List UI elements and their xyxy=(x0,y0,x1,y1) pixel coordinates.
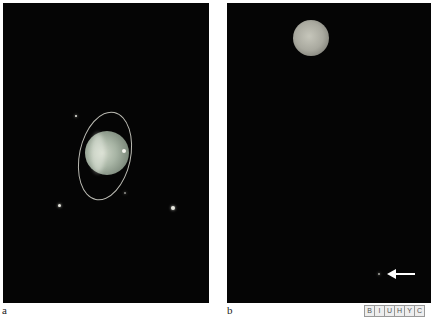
figure-panel-a xyxy=(3,3,209,303)
figure-panel-b xyxy=(227,3,431,303)
publisher-badge: B I U H Y C xyxy=(365,305,425,317)
planet-polar-band xyxy=(91,133,105,173)
moon xyxy=(75,115,77,117)
panel-label-b: b xyxy=(227,304,233,316)
faint-object xyxy=(378,273,380,275)
moon xyxy=(171,206,175,210)
arrow-left-icon xyxy=(387,269,417,279)
planet-disk xyxy=(293,20,329,56)
planet-bright-spot xyxy=(122,149,126,153)
moon xyxy=(124,192,126,194)
panel-label-a: a xyxy=(2,304,7,316)
badge-letter: C xyxy=(414,305,425,317)
moon xyxy=(58,204,61,207)
